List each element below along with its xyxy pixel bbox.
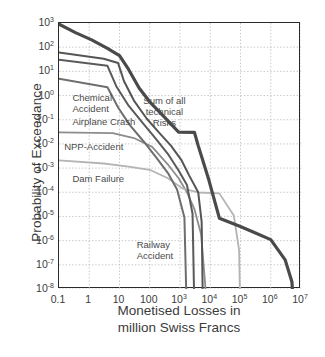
annotation-line: Dam Failure [72, 173, 124, 184]
y-tick-label: 101 [18, 64, 54, 76]
annotation-line: Railway [137, 239, 173, 250]
plot-canvas [59, 23, 301, 289]
annotation-sum-technical-risks: Sum of alltechnicalRisks [143, 95, 185, 128]
annotation-line: technical [143, 106, 185, 117]
series-chemical-accident [59, 53, 203, 289]
y-tick-label: 10-5 [18, 209, 54, 221]
y-tick-label: 10-4 [18, 185, 54, 197]
y-tick-label: 10-2 [18, 137, 54, 149]
y-tick-label: 10-6 [18, 234, 54, 246]
y-tick-label: 10-7 [18, 258, 54, 270]
annotation-line: Sum of all [143, 95, 185, 106]
y-tick-label: 102 [18, 40, 54, 52]
annotation-line: Airplane Crash [72, 116, 135, 127]
y-tick-label: 103 [18, 16, 54, 28]
x-axis-title-line-1: Monetised Losses in [58, 302, 300, 319]
y-tick-label: 100 [18, 89, 54, 101]
exceedance-probability-chart: Probability of Exceedance 10310210110010… [0, 0, 325, 357]
annotation-railway-accident: RailwayAccident [137, 239, 173, 261]
annotation-line: Risks [143, 117, 185, 128]
annotation-chemical-accident: ChemicalAccident [72, 92, 112, 114]
annotation-line: Accident [137, 250, 173, 261]
y-tick-label: 10-3 [18, 161, 54, 173]
annotation-airplane-crash: Airplane Crash [72, 116, 135, 127]
y-tick-label: 10-8 [18, 282, 54, 294]
gridlines [59, 23, 301, 289]
annotation-npp-accident: NPP-Accident [64, 141, 123, 152]
annotation-line: NPP-Accident [64, 141, 123, 152]
annotation-dam-failure: Dam Failure [72, 173, 124, 184]
annotation-line: Chemical [72, 92, 112, 103]
plot-area [58, 22, 300, 288]
annotation-line: Accident [72, 103, 112, 114]
x-axis-title: Monetised Losses in million Swiss Francs [58, 302, 300, 336]
x-axis-title-line-2: million Swiss Francs [58, 319, 300, 336]
y-tick-label: 10-1 [18, 113, 54, 125]
